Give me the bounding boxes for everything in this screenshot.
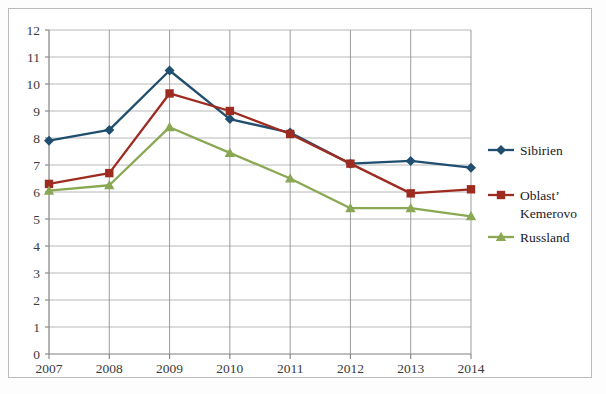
data-point-marker-triangle: [164, 122, 174, 131]
legend-item[interactable]: Oblast’Kemerovo: [488, 188, 577, 221]
y-axis-tick-label: 3: [33, 266, 40, 281]
chart-legend: SibirienOblast’KemerovoRussland: [488, 143, 577, 245]
y-axis-tick-labels: 0123456789101112: [27, 23, 41, 362]
data-point-marker-square: [407, 189, 415, 197]
x-axis-tick-label: 2014: [458, 361, 485, 376]
data-point-marker-diamond: [496, 145, 506, 155]
data-point-marker-square: [226, 107, 234, 115]
x-axis-tick-label: 2011: [277, 361, 304, 376]
legend-label: Sibirien: [520, 143, 563, 158]
y-axis-tick-label: 12: [27, 23, 41, 38]
x-axis-tick-label: 2009: [156, 361, 183, 376]
legend-label: Oblast’: [520, 188, 560, 203]
data-point-marker-diamond: [44, 136, 54, 146]
data-point-marker-square: [467, 185, 475, 193]
legend-item[interactable]: Russland: [488, 230, 570, 245]
chart-frame: 0123456789101112 20072008200920102011201…: [8, 8, 592, 378]
series-group: [44, 66, 476, 173]
x-axis-tick-label: 2008: [96, 361, 123, 376]
x-axis-tick-label: 2010: [216, 361, 243, 376]
y-axis-tick-label: 6: [33, 185, 40, 200]
line-chart: 0123456789101112 20072008200920102011201…: [9, 9, 593, 379]
y-axis-tick-label: 1: [33, 320, 40, 335]
data-point-marker-square: [286, 130, 294, 138]
data-point-marker-square: [105, 169, 113, 177]
y-axis-tick-label: 9: [33, 104, 40, 119]
y-axis-tick-label: 11: [27, 50, 40, 65]
data-point-marker-square: [346, 159, 354, 167]
y-axis-tick-label: 2: [33, 293, 40, 308]
x-axis-tick-label: 2012: [337, 361, 364, 376]
y-axis-tick-label: 0: [33, 347, 40, 362]
data-point-marker-diamond: [466, 163, 476, 173]
legend-label: Russland: [520, 230, 570, 245]
y-axis-tick-label: 8: [33, 131, 40, 146]
legend-label: Kemerovo: [520, 206, 577, 221]
series-line: [49, 71, 471, 168]
y-axis-tick-label: 4: [33, 239, 40, 254]
y-axis-tick-label: 5: [33, 212, 40, 227]
data-point-marker-square: [497, 191, 505, 199]
x-axis-tick-label: 2013: [397, 361, 424, 376]
chart-page: 0123456789101112 20072008200920102011201…: [0, 0, 606, 394]
series-layer: [44, 66, 476, 221]
data-point-marker-square: [165, 89, 173, 97]
x-axis-tick-label: 2007: [36, 361, 63, 376]
legend-item[interactable]: Sibirien: [488, 143, 563, 158]
series-line: [49, 93, 471, 193]
data-point-marker-diamond: [406, 156, 416, 166]
x-axis-tick-labels: 20072008200920102011201220132014: [36, 361, 485, 376]
y-axis-tick-label: 7: [33, 158, 40, 173]
y-axis-tick-label: 10: [27, 77, 41, 92]
